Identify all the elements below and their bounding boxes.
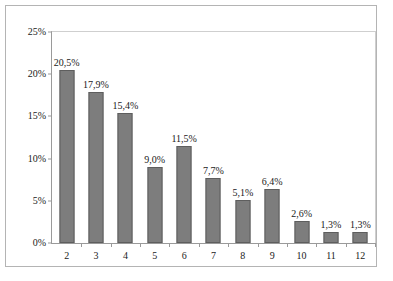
x-tick-label: 12 [355,251,365,261]
bar-value-label: 2,6% [291,209,312,219]
bar[interactable] [206,178,221,243]
bar[interactable] [118,113,133,243]
x-tick-label: 4 [123,251,128,261]
bar-group[interactable]: 7,7% [199,32,228,243]
x-tick-label: 3 [94,251,99,261]
chart-screenshot: 0%5%10%15%20%25% 23456789101112 20,5%17,… [0,0,393,281]
x-tick-label: 5 [152,251,157,261]
x-tick-label: 2 [64,251,69,261]
bar-group[interactable]: 9,0% [140,32,169,243]
x-tick-label: 8 [240,251,245,261]
bar[interactable] [294,221,309,243]
x-tick-mark [199,243,200,247]
bar-value-label: 6,4% [262,177,283,187]
bar-value-label: 1,3% [321,220,342,230]
x-tick-mark [375,243,376,247]
bar-value-label: 15,4% [112,101,138,111]
bar[interactable] [235,200,250,243]
plot-area: 0%5%10%15%20%25% 23456789101112 20,5%17,… [51,31,376,244]
bar-value-label: 9,0% [144,155,165,165]
x-tick-mark [228,243,229,247]
bar[interactable] [177,146,192,243]
x-tick-label: 6 [182,251,187,261]
x-tick-mark [346,243,347,247]
bar[interactable] [323,232,338,243]
bar[interactable] [265,189,280,243]
y-tick-label: 15% [28,111,46,121]
bar[interactable] [89,92,104,243]
x-tick-mark [258,243,259,247]
x-tick-label: 11 [326,251,336,261]
bar-group[interactable]: 15,4% [111,32,140,243]
bar-group[interactable]: 2,6% [287,32,316,243]
bar-group[interactable]: 1,3% [346,32,375,243]
x-tick-label: 9 [270,251,275,261]
bar-group[interactable]: 6,4% [258,32,287,243]
bar-group[interactable]: 20,5% [52,32,81,243]
bar-group[interactable]: 11,5% [169,32,198,243]
x-tick-mark [111,243,112,247]
x-tick-mark [140,243,141,247]
x-tick-mark [287,243,288,247]
bar-value-label: 20,5% [54,58,80,68]
y-tick-label: 20% [28,69,46,79]
bar[interactable] [353,232,368,243]
bar[interactable] [59,70,74,243]
bar-value-label: 11,5% [171,134,196,144]
bar-group[interactable]: 5,1% [228,32,257,243]
x-tick-label: 10 [297,251,307,261]
x-tick-label: 7 [211,251,216,261]
bar-group[interactable]: 17,9% [81,32,110,243]
bar[interactable] [147,167,162,243]
x-tick-mark [81,243,82,247]
bar-value-label: 7,7% [203,166,224,176]
y-tick-label: 5% [33,196,46,206]
bar-group[interactable]: 1,3% [316,32,345,243]
x-tick-mark [316,243,317,247]
y-tick-label: 10% [28,154,46,164]
bar-value-label: 5,1% [232,188,253,198]
x-tick-mark [169,243,170,247]
y-tick-label: 25% [28,27,46,37]
figure-frame: 0%5%10%15%20%25% 23456789101112 20,5%17,… [5,5,377,267]
y-tick-label: 0% [33,238,46,248]
bars-layer: 20,5%17,9%15,4%9,0%11,5%7,7%5,1%6,4%2,6%… [52,32,375,243]
bar-value-label: 17,9% [83,80,109,90]
bar-value-label: 1,3% [350,220,371,230]
